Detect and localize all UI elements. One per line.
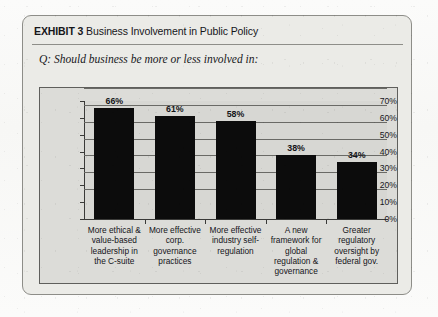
bar-value-label: 66% bbox=[105, 96, 123, 106]
y-tick-mark bbox=[80, 202, 85, 203]
bar bbox=[337, 162, 377, 219]
gridline bbox=[84, 88, 387, 89]
y-tick-mark bbox=[80, 101, 85, 102]
bar bbox=[94, 108, 134, 219]
bar bbox=[276, 155, 316, 219]
y-tick-mark bbox=[80, 135, 85, 136]
y-tick-mark bbox=[80, 168, 85, 169]
exhibit-card: EXHIBIT 3 Business Involvement in Public… bbox=[22, 15, 412, 295]
x-axis bbox=[84, 219, 388, 220]
exhibit-title-text: Business Involvement in Public Policy bbox=[86, 25, 258, 37]
y-tick-mark bbox=[80, 118, 85, 119]
y-tick-label: 70% bbox=[363, 96, 397, 106]
bar-chart: 0%10%20%30%40%50%60%70% 66%61%58%38%34% … bbox=[39, 87, 398, 284]
y-tick-mark bbox=[80, 185, 85, 186]
x-tick-mark bbox=[326, 219, 327, 224]
bar-value-label: 34% bbox=[348, 150, 366, 160]
x-tick-mark bbox=[266, 219, 267, 224]
bar-value-label: 38% bbox=[287, 143, 305, 153]
question-text: Q: Should business be more or less invol… bbox=[39, 53, 258, 65]
title-divider bbox=[32, 44, 403, 45]
gridline bbox=[84, 105, 387, 106]
exhibit-page: EXHIBIT 3 Business Involvement in Public… bbox=[0, 0, 438, 317]
bar-value-label: 58% bbox=[227, 109, 245, 119]
y-tick-label: 60% bbox=[363, 113, 397, 123]
x-tick-mark bbox=[145, 219, 146, 224]
y-tick-label: 50% bbox=[363, 130, 397, 140]
x-tick-mark bbox=[205, 219, 206, 224]
y-tick-mark bbox=[80, 219, 85, 220]
y-tick-label: 40% bbox=[363, 147, 397, 157]
y-tick-mark bbox=[80, 152, 85, 153]
bar bbox=[155, 116, 195, 219]
bar bbox=[216, 121, 256, 219]
exhibit-title-row: EXHIBIT 3 Business Involvement in Public… bbox=[34, 25, 258, 37]
category-label: Greaterregulatoryoversight byfederal gov… bbox=[321, 225, 392, 266]
exhibit-number-label: EXHIBIT 3 bbox=[34, 25, 83, 37]
bar-value-label: 61% bbox=[166, 104, 184, 114]
